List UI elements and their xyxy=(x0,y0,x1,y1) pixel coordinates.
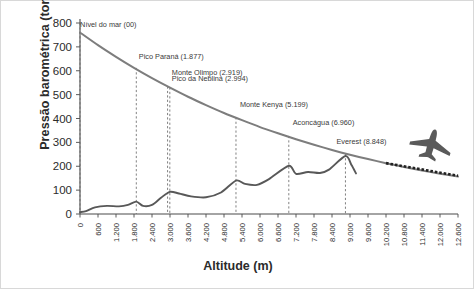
annotation-label: Monte Kenya (5.199) xyxy=(240,100,308,109)
x-tick-label: 12.000 xyxy=(436,223,445,246)
x-tick-label: 3.000 xyxy=(166,223,175,242)
x-tick-label: 6.600 xyxy=(274,223,283,242)
annotation-label: Nível do mar (00) xyxy=(80,20,136,29)
annotation-labels: Nível do mar (00)Pico Paraná (1.877)Mont… xyxy=(80,20,386,146)
annotation-label: Aconcágua (6.960) xyxy=(293,118,355,127)
airplane-icon xyxy=(407,124,456,165)
x-tick-label: 10.200 xyxy=(382,223,391,246)
y-tick-label: 0 xyxy=(66,208,72,220)
y-tick-label: 500 xyxy=(53,89,72,101)
annotation-label: Pico da Neblina (2.994) xyxy=(172,74,248,83)
y-tick-label: 600 xyxy=(53,65,72,77)
pressure-altitude-chart: 0100200300400500600700800 06001.2001.800… xyxy=(1,1,474,289)
airplane-icon xyxy=(407,124,456,165)
terrain-profile-line xyxy=(80,156,356,212)
y-tick-label: 200 xyxy=(53,160,72,172)
x-tick-label: 9.000 xyxy=(346,223,355,242)
chart-frame: Pressão barométrica (torr) Altitude (m) … xyxy=(0,0,474,289)
x-tick-label: 4.200 xyxy=(202,223,211,242)
x-tick-label: 10.800 xyxy=(400,223,409,246)
x-tick-label: 5.400 xyxy=(238,223,247,242)
x-tick-label: 3.600 xyxy=(184,223,193,242)
y-tick-label: 700 xyxy=(53,41,72,53)
x-tick-label: 12.600 xyxy=(454,223,463,246)
annotation-label: Everest (8.848) xyxy=(337,137,387,146)
plot-area: 0100200300400500600700800 06001.2001.800… xyxy=(1,1,474,289)
x-tick-label: 11.400 xyxy=(418,223,427,246)
x-tick-label: 4.800 xyxy=(220,223,229,242)
y-tick-labels: 0100200300400500600700800 xyxy=(53,17,80,220)
y-tick-label: 400 xyxy=(53,113,72,125)
x-tick-label: 6.000 xyxy=(256,223,265,242)
annotation-label: Pico Paraná (1.877) xyxy=(139,52,204,61)
y-tick-label: 100 xyxy=(53,184,72,196)
x-tick-label: 1.200 xyxy=(112,223,121,242)
x-tick-label: 7.800 xyxy=(310,223,319,242)
x-tick-label: 1.800 xyxy=(130,223,139,242)
y-tick-label: 800 xyxy=(53,17,72,29)
x-tick-labels: 06001.2001.8002.4003.0003.6004.2004.8005… xyxy=(76,214,463,246)
x-tick-label: 9.600 xyxy=(364,223,373,242)
y-tick-label: 300 xyxy=(53,136,72,148)
x-tick-label: 2.400 xyxy=(148,223,157,242)
x-tick-label: 8.400 xyxy=(328,223,337,242)
x-tick-label: 7.200 xyxy=(292,223,301,242)
x-tick-label: 600 xyxy=(94,223,103,236)
x-tick-label: 0 xyxy=(76,223,85,227)
